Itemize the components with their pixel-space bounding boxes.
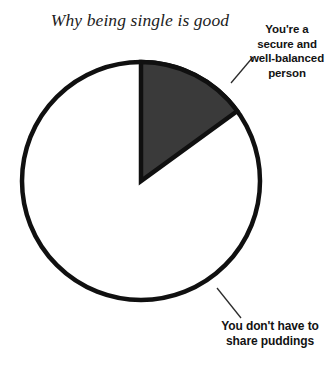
chart-canvas: Why being single is good You're a secure… (0, 0, 336, 368)
slice-label-puddings: You don't have to share puddings (206, 319, 334, 349)
slice-label-secure-line-1: You're a (240, 22, 334, 37)
leader-line-puddings (217, 288, 241, 318)
slice-label-secure-line-3: well-balanced (240, 51, 334, 66)
slice-label-secure-line-2: secure and (240, 37, 334, 52)
slice-label-secure: You're a secure and well-balanced person (240, 22, 334, 80)
slice-label-puddings-line-2: share puddings (206, 334, 334, 349)
slice-label-secure-line-4: person (240, 66, 334, 81)
slice-label-puddings-line-1: You don't have to (206, 319, 334, 334)
